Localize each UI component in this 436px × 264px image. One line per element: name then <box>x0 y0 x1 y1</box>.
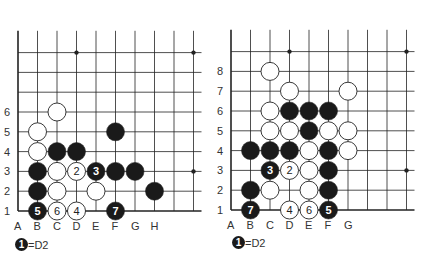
column-label: G <box>131 220 140 232</box>
row-label: 6 <box>4 106 10 118</box>
column-label: A <box>227 219 235 231</box>
column-label: G <box>344 219 353 231</box>
move-number: 2 <box>286 164 292 176</box>
row-label: 7 <box>217 85 223 97</box>
column-label: F <box>112 220 119 232</box>
column-label: E <box>92 220 99 232</box>
black-stone <box>242 142 260 160</box>
white-stone <box>29 123 47 141</box>
white-stone <box>261 102 279 120</box>
white-stone <box>339 142 357 160</box>
star-point-icon <box>191 169 195 173</box>
row-label: 2 <box>217 184 223 196</box>
black-stone <box>281 102 299 120</box>
black-stone-1-icon: 1 <box>232 236 245 249</box>
white-stone <box>300 181 318 199</box>
go-diagrams: 123456ABCDEFGH23564712345678ABCDEFG32746… <box>0 0 436 264</box>
white-stone <box>261 62 279 80</box>
column-label: C <box>53 220 61 232</box>
white-stone <box>281 122 299 140</box>
move-number: 6 <box>54 205 60 217</box>
white-stone <box>339 82 357 100</box>
move-number: 6 <box>306 204 312 216</box>
white-stone <box>48 103 66 121</box>
note-right-text: =D2 <box>245 237 266 249</box>
row-label: 1 <box>4 205 10 217</box>
note-right: 1 =D2 <box>232 236 266 249</box>
white-stone <box>87 182 105 200</box>
white-stone <box>261 181 279 199</box>
star-point-icon <box>404 49 408 53</box>
move-number: 7 <box>247 204 253 216</box>
row-label: 4 <box>4 146 10 158</box>
white-stone <box>48 162 66 180</box>
move-number: 2 <box>73 165 79 177</box>
black-stone <box>29 162 47 180</box>
black-stone <box>261 142 279 160</box>
black-stone <box>146 182 164 200</box>
black-stone <box>29 182 47 200</box>
white-stone <box>29 143 47 161</box>
black-stone <box>48 143 66 161</box>
white-stone <box>300 161 318 179</box>
row-label: 3 <box>4 165 10 177</box>
white-stone <box>339 122 357 140</box>
column-label: B <box>247 219 254 231</box>
move-number: 4 <box>73 205 79 217</box>
star-point-icon <box>287 49 291 53</box>
row-label: 5 <box>4 126 10 138</box>
black-stone <box>68 143 86 161</box>
row-label: 1 <box>217 204 223 216</box>
row-label: 5 <box>217 125 223 137</box>
column-label: E <box>305 219 312 231</box>
black-stone <box>107 162 125 180</box>
column-label: H <box>151 220 159 232</box>
black-stone <box>126 162 144 180</box>
black-stone <box>320 142 338 160</box>
move-number: 5 <box>325 204 331 216</box>
star-point-icon <box>74 50 78 54</box>
black-stone <box>242 181 260 199</box>
move-number: 3 <box>93 165 99 177</box>
column-label: D <box>286 219 294 231</box>
white-stone <box>281 82 299 100</box>
black-stone <box>300 102 318 120</box>
note-left-text: =D2 <box>28 239 49 251</box>
white-stone <box>320 122 338 140</box>
column-label: C <box>266 219 274 231</box>
black-stone <box>320 161 338 179</box>
column-label: A <box>14 220 22 232</box>
go-board-left: 123456ABCDEFGH235647 <box>4 31 202 232</box>
black-stone <box>281 142 299 160</box>
black-stone <box>107 123 125 141</box>
column-label: D <box>73 220 81 232</box>
white-stone <box>261 122 279 140</box>
row-label: 8 <box>217 65 223 77</box>
note-left: 1 =D2 <box>15 238 49 251</box>
black-stone <box>300 122 318 140</box>
row-label: 2 <box>4 185 10 197</box>
move-number: 7 <box>112 205 118 217</box>
column-label: F <box>325 219 332 231</box>
row-label: 4 <box>217 145 223 157</box>
white-stone <box>300 142 318 160</box>
move-number: 4 <box>286 204 292 216</box>
row-label: 3 <box>217 164 223 176</box>
star-point-icon <box>404 168 408 172</box>
column-label: B <box>34 220 41 232</box>
row-label: 6 <box>217 105 223 117</box>
white-stone <box>48 182 66 200</box>
star-point-icon <box>191 50 195 54</box>
move-number: 5 <box>34 205 40 217</box>
black-stone-1-icon: 1 <box>15 238 28 251</box>
black-stone <box>320 102 338 120</box>
black-stone <box>320 181 338 199</box>
move-number: 3 <box>267 164 273 176</box>
go-board-right: 12345678ABCDEFG327465 <box>217 30 415 231</box>
